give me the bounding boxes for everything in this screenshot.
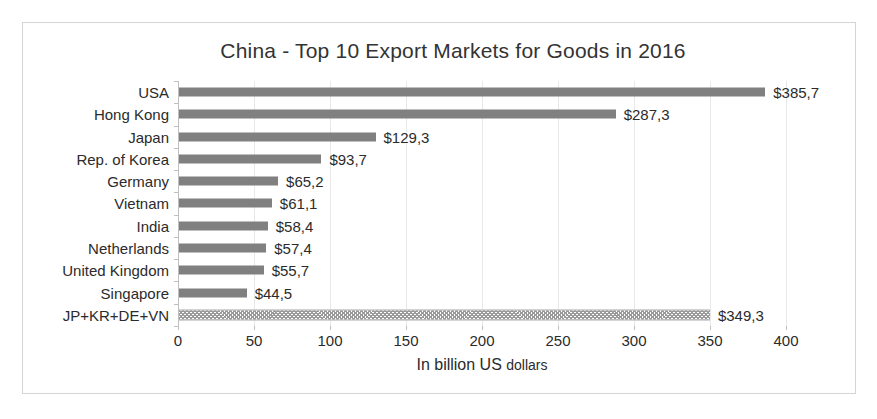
bar-row[interactable]: Germany$65,2: [178, 170, 786, 192]
bar-value-label: $58,4: [276, 217, 314, 234]
value-tick-label: 300: [621, 332, 646, 349]
category-label: Japan: [128, 128, 169, 145]
bar[interactable]: [179, 309, 710, 320]
category-label: Germany: [107, 173, 169, 190]
bar[interactable]: [179, 199, 272, 208]
bar[interactable]: [179, 132, 376, 141]
bar[interactable]: [179, 288, 247, 297]
bar-value-label: $129,3: [384, 128, 430, 145]
value-tick-label: 400: [773, 332, 798, 349]
axis-title-main: In billion US: [416, 356, 501, 373]
bar-value-label: $93,7: [329, 150, 367, 167]
bar[interactable]: [179, 110, 616, 119]
category-label: Singapore: [101, 284, 169, 301]
bar-value-label: $349,3: [718, 306, 764, 323]
value-tick-mark: [178, 326, 179, 330]
value-tick-mark: [406, 326, 407, 330]
value-tick-mark: [330, 326, 331, 330]
value-axis: 050100150200250300350400: [178, 326, 786, 352]
value-tick-label: 100: [317, 332, 342, 349]
bar-row[interactable]: JP+KR+DE+VN$349,3: [178, 304, 786, 326]
category-label: India: [136, 217, 169, 234]
value-tick-label: 200: [469, 332, 494, 349]
chart-frame: China - Top 10 Export Markets for Goods …: [22, 22, 856, 394]
category-label: USA: [138, 84, 169, 101]
category-label: United Kingdom: [62, 262, 169, 279]
bar[interactable]: [179, 244, 266, 253]
value-tick-label: 250: [545, 332, 570, 349]
bar-row[interactable]: Singapore$44,5: [178, 281, 786, 303]
bar[interactable]: [179, 266, 264, 275]
bar-value-label: $61,1: [280, 195, 318, 212]
bar-row[interactable]: USA$385,7: [178, 81, 786, 103]
gridline-400: [786, 81, 787, 326]
bar-row[interactable]: Japan$129,3: [178, 126, 786, 148]
value-tick-label: 50: [246, 332, 263, 349]
value-tick-mark: [710, 326, 711, 330]
bar-value-label: $57,4: [274, 240, 312, 257]
value-tick-mark: [634, 326, 635, 330]
bar-value-label: $287,3: [624, 106, 670, 123]
bar-row[interactable]: India$58,4: [178, 215, 786, 237]
bar-value-label: $44,5: [255, 284, 293, 301]
bar-row[interactable]: Vietnam$61,1: [178, 192, 786, 214]
value-tick-mark: [786, 326, 787, 330]
bar-value-label: $55,7: [272, 262, 310, 279]
category-label: Hong Kong: [94, 106, 169, 123]
bar-row[interactable]: Hong Kong$287,3: [178, 103, 786, 125]
axis-zero-line: [178, 81, 179, 326]
category-label: Netherlands: [88, 240, 169, 257]
value-tick-label: 150: [393, 332, 418, 349]
value-tick-mark: [558, 326, 559, 330]
bar[interactable]: [179, 154, 321, 163]
category-label: JP+KR+DE+VN: [63, 306, 169, 323]
value-tick-mark: [254, 326, 255, 330]
bar-value-label: $65,2: [286, 173, 324, 190]
bar-row[interactable]: Netherlands$57,4: [178, 237, 786, 259]
category-label: Vietnam: [114, 195, 169, 212]
chart-title: China - Top 10 Export Markets for Goods …: [23, 39, 855, 63]
bar[interactable]: [179, 221, 268, 230]
plot-area: USA$385,7Hong Kong$287,3Japan$129,3Rep. …: [178, 81, 786, 326]
category-label: Rep. of Korea: [76, 150, 169, 167]
bar[interactable]: [179, 88, 765, 97]
value-tick-mark: [482, 326, 483, 330]
value-tick-label: 0: [174, 332, 182, 349]
bar[interactable]: [179, 177, 278, 186]
bar-row[interactable]: Rep. of Korea$93,7: [178, 148, 786, 170]
axis-title: In billion US dollars: [178, 356, 786, 374]
value-tick-label: 350: [697, 332, 722, 349]
bar-row[interactable]: United Kingdom$55,7: [178, 259, 786, 281]
bar-value-label: $385,7: [773, 84, 819, 101]
axis-title-secondary: dollars: [506, 357, 547, 373]
